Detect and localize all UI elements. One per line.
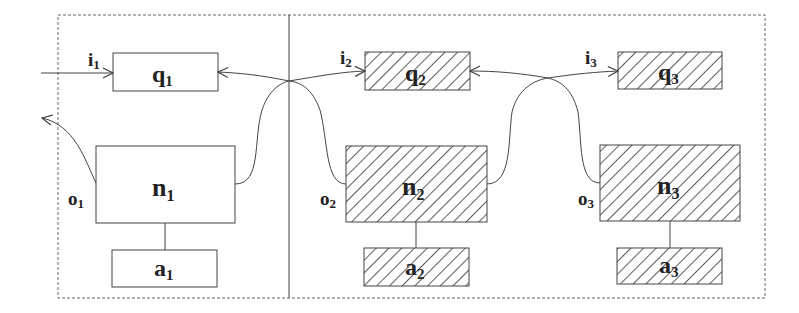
edge-n2-q3 [487, 71, 618, 184]
output-label-3: o3 [578, 188, 595, 211]
diagram-canvas: q1 q2 q3 n1 n2 n3 a1 a2 a3 i1 i2 i3 o1 o… [0, 0, 799, 313]
input-label-3: i3 [585, 47, 597, 70]
edge-n3-q2 [470, 71, 600, 183]
input-label-1: i1 [88, 49, 100, 72]
output-label-1: o1 [68, 188, 84, 211]
edge-o1 [42, 118, 96, 183]
agent-3 [600, 52, 740, 284]
node-box-2 [346, 146, 487, 222]
agent-2 [346, 52, 487, 286]
edge-n2-q1 [218, 72, 346, 184]
input-label-2: i2 [340, 47, 352, 70]
output-label-2: o2 [320, 188, 336, 211]
